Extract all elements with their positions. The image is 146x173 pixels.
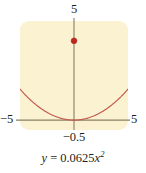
x-axis-max-label: 5 (131, 113, 146, 126)
equation-coefficient: 0.0625 (60, 151, 94, 165)
parabola-figure: 5 −5 5 −0.5 y=0.0625x2 (0, 0, 146, 173)
equation-equals-sign: = (50, 151, 57, 165)
x-axis-min-label: −5 (0, 113, 19, 126)
vertex-x-label: −0.5 (0, 131, 146, 144)
marked-point (71, 38, 77, 44)
y-axis-max-label: 5 (0, 3, 146, 16)
equation-exponent: 2 (100, 149, 104, 159)
equation-lhs: y (42, 151, 48, 165)
plot-canvas (0, 0, 146, 173)
equation-caption: y=0.0625x2 (0, 152, 146, 165)
